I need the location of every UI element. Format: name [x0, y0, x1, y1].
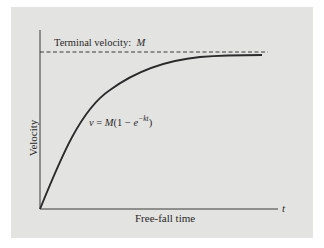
terminal-velocity-label: Terminal velocity: M	[54, 37, 145, 48]
chart-plot	[0, 0, 324, 248]
t-axis-symbol: t	[282, 202, 285, 214]
velocity-curve	[40, 55, 262, 209]
velocity-formula: v = M(1 − e−kt)	[89, 114, 152, 128]
y-axis-label: Velocity	[27, 103, 39, 173]
x-axis-label: Free-fall time	[135, 212, 195, 224]
